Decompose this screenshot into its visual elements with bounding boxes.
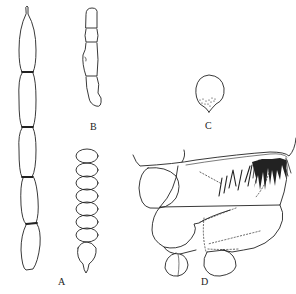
figure-plate: A B C D <box>0 0 296 294</box>
panel-a-filament <box>19 6 40 270</box>
bristle-tuft <box>219 165 252 196</box>
panel-label-a: A <box>58 277 65 287</box>
panel-label-b: B <box>90 122 97 132</box>
panel-label-d: D <box>201 277 208 287</box>
line-drawing <box>0 0 296 294</box>
panel-b-appendage <box>83 8 101 106</box>
panel-label-c: C <box>205 121 212 131</box>
panel-a-beaded-chain <box>76 149 98 273</box>
panel-c-ovoid <box>196 75 224 112</box>
panel-d-body <box>133 138 296 276</box>
